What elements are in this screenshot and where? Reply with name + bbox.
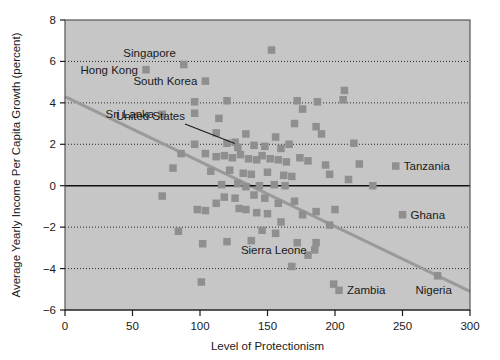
data-point-south-korea <box>202 77 210 85</box>
data-point <box>275 200 283 208</box>
data-point <box>299 211 307 219</box>
data-point <box>231 194 239 202</box>
data-point <box>330 280 338 288</box>
data-point <box>280 172 288 180</box>
data-point <box>288 263 296 271</box>
data-point <box>339 96 347 104</box>
data-point <box>234 180 242 188</box>
data-point <box>158 192 166 200</box>
data-point <box>264 169 272 177</box>
y-axis-tick-label: 6 <box>50 55 56 67</box>
data-point <box>275 156 283 164</box>
x-axis-tick-label: 50 <box>126 320 139 332</box>
data-point <box>239 170 247 178</box>
data-point <box>312 123 320 131</box>
point-label-south-korea: South Korea <box>133 75 198 87</box>
data-point <box>198 278 206 286</box>
data-point-tanzania <box>392 162 400 170</box>
data-point <box>237 151 245 159</box>
data-point <box>304 157 312 165</box>
data-point <box>261 194 269 202</box>
point-label-hong-kong: Hong Kong <box>80 64 138 76</box>
data-point <box>191 98 199 106</box>
data-point <box>268 46 276 54</box>
data-point <box>253 209 261 217</box>
y-axis-tick-label: 8 <box>50 14 56 26</box>
chart-canvas: −6−4−202468050100150200250300Level of Pr… <box>0 0 500 360</box>
data-point <box>272 133 280 141</box>
data-point <box>326 171 334 179</box>
data-point <box>296 154 304 162</box>
data-point <box>369 182 377 190</box>
data-point <box>169 164 177 172</box>
point-label-united-states: United States <box>116 110 185 122</box>
point-label-sierra-leone: Sierra Leone <box>241 244 307 256</box>
data-point <box>331 206 339 214</box>
data-point-sierra-leone <box>311 246 319 254</box>
data-point <box>277 145 285 153</box>
data-point <box>212 153 220 161</box>
data-point <box>341 87 349 95</box>
data-point <box>356 160 364 168</box>
data-point <box>175 228 183 236</box>
data-point <box>194 206 202 214</box>
x-axis-tick-label: 150 <box>258 320 277 332</box>
point-label-zambia: Zambia <box>347 284 386 296</box>
x-axis-title: Level of Protectionism <box>211 340 324 352</box>
data-point <box>218 181 226 189</box>
point-label-tanzania: Tanzania <box>404 160 451 172</box>
data-point <box>318 130 326 138</box>
data-point <box>350 140 358 148</box>
x-axis-tick-label: 250 <box>393 320 412 332</box>
y-axis-tick-label: −2 <box>43 221 56 233</box>
data-point <box>221 152 229 160</box>
data-point <box>271 181 279 189</box>
data-point <box>242 206 250 214</box>
data-point <box>258 227 266 235</box>
data-point <box>256 182 264 190</box>
data-point <box>199 240 207 248</box>
data-point <box>229 154 237 162</box>
data-point <box>248 171 256 179</box>
data-point <box>235 205 243 213</box>
data-point <box>261 143 269 151</box>
data-point <box>242 130 250 138</box>
data-point <box>345 176 353 184</box>
y-axis-tick-label: −4 <box>43 263 57 275</box>
data-point <box>202 150 210 158</box>
y-axis-tick-label: 2 <box>50 138 56 150</box>
data-point-ghana <box>399 211 407 219</box>
data-point <box>215 115 223 123</box>
data-point <box>277 218 285 226</box>
x-axis-tick-label: 100 <box>190 320 209 332</box>
data-point <box>291 120 299 128</box>
y-axis-tick-label: 4 <box>50 97 57 109</box>
point-label-nigeria: Nigeria <box>415 284 452 296</box>
data-point-singapore <box>180 61 188 69</box>
data-point <box>245 155 253 163</box>
data-point <box>291 198 299 206</box>
data-point <box>314 98 322 106</box>
data-point-nigeria <box>434 272 442 280</box>
data-point <box>312 239 320 247</box>
data-point <box>191 109 199 117</box>
data-point <box>266 155 274 163</box>
data-point <box>285 141 293 149</box>
data-point <box>177 150 185 158</box>
data-point <box>322 161 330 169</box>
data-point <box>226 166 234 174</box>
data-point <box>242 183 250 191</box>
data-point-hong-kong <box>142 66 150 74</box>
scatter-plot-figure: −6−4−202468050100150200250300Level of Pr… <box>0 0 500 360</box>
y-axis-tick-label: 0 <box>50 180 56 192</box>
data-point <box>326 221 334 229</box>
data-point <box>223 238 231 246</box>
data-point <box>191 141 199 149</box>
data-point <box>283 158 291 166</box>
data-point <box>207 167 215 175</box>
data-point <box>258 152 266 160</box>
x-axis-tick-label: 0 <box>62 320 68 332</box>
point-label-singapore: Singapore <box>123 47 175 59</box>
data-point <box>202 207 210 215</box>
x-axis-tick-label: 300 <box>460 320 479 332</box>
